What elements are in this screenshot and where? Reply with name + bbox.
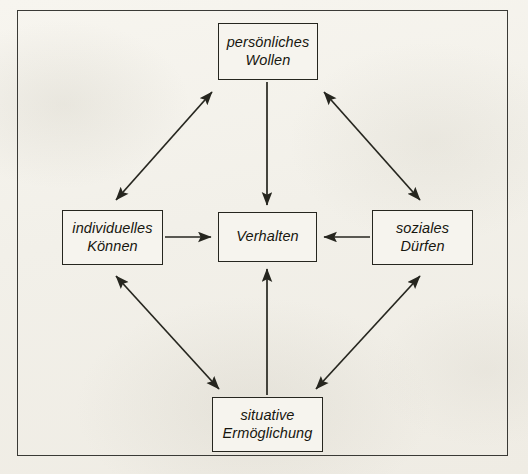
- node-label: situativeErmöglichung: [223, 407, 313, 442]
- node-label: Verhalten: [236, 228, 298, 246]
- node-label: individuellesKönnen: [72, 220, 152, 255]
- node-persoenliches-wollen[interactable]: persönlichesWollen: [218, 23, 318, 80]
- diagram-page: persönlichesWollen individuellesKönnen V…: [0, 0, 528, 474]
- node-label: sozialesDürfen: [396, 220, 449, 255]
- node-label: persönlichesWollen: [227, 34, 310, 69]
- node-soziales-duerfen[interactable]: sozialesDürfen: [372, 210, 473, 265]
- node-situative-ermoeglichung[interactable]: situativeErmöglichung: [212, 397, 323, 452]
- node-individuelles-koennen[interactable]: individuellesKönnen: [62, 210, 163, 265]
- node-verhalten[interactable]: Verhalten: [218, 212, 317, 262]
